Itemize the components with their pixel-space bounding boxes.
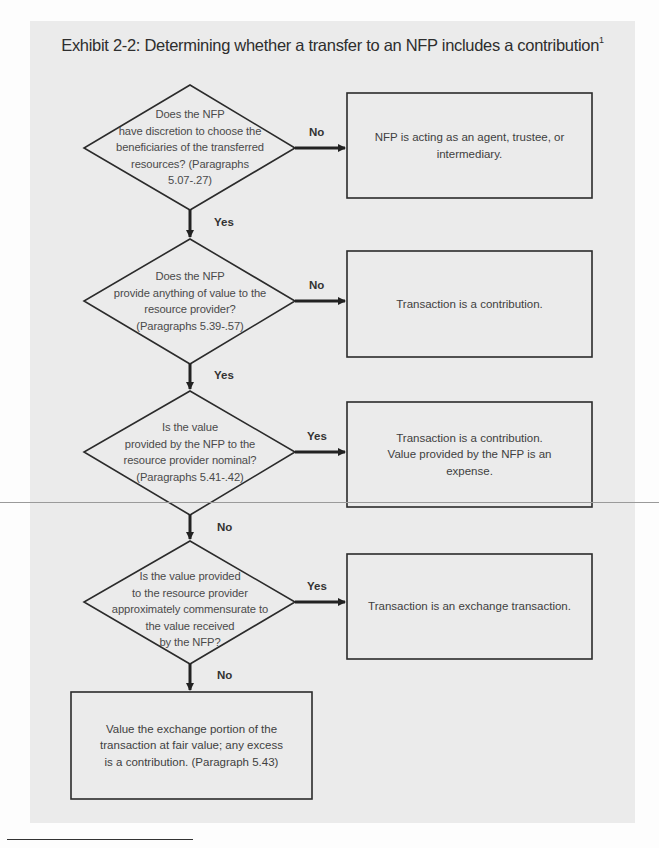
outcome-2-line: Transaction is a contribution. [396,296,543,313]
decision-4-line: Is the value provided [90,568,290,585]
footnote-rule [7,839,193,840]
outcome-3-line: expense. [388,463,552,480]
decision-2-line: (Paragraphs 5.39-.57) [90,318,290,335]
outcome-3-line: Value provided by the NFP is an [388,446,552,463]
decision-3-line: (Paragraphs 5.41-.42) [90,469,290,486]
d1-yes-label: Yes [214,216,234,228]
d2-yes-label: Yes [214,369,234,381]
d3-no-label: No [217,521,232,533]
decision-1-text: Does the NFP have discretion to choose t… [90,106,290,189]
decision-3-line: Is the value [90,419,290,436]
decision-2-line: Does the NFP [90,268,290,285]
outcome-5-line: Value the exchange portion of the [100,721,283,738]
decision-4-line: approximately commensurate to [90,601,290,618]
decision-1-line: have discretion to choose the [90,123,290,140]
decision-1-line: Does the NFP [90,106,290,123]
decision-4-line: by the NFP? [90,634,290,651]
outcome-2-text: Transaction is a contribution. [348,252,591,356]
outcome-5-line: transaction at fair value; any excess [100,737,283,754]
outcome-5-text: Value the exchange portion of the transa… [72,693,311,798]
decision-3-line: resource provider nominal? [90,452,290,469]
d4-no-label: No [217,669,232,681]
d4-yes-label: Yes [307,580,327,592]
outcome-5-line: is a contribution. (Paragraph 5.43) [100,754,283,771]
outcome-1-line: intermediary. [375,146,565,163]
decision-2-text: Does the NFP provide anything of value t… [90,268,290,334]
d1-no-label: No [309,126,324,138]
decision-3-line: provided by the NFP to the [90,436,290,453]
outcome-3-line: Transaction is a contribution. [388,430,552,447]
decision-4-line: to the resource provider [90,585,290,602]
d3-yes-label: Yes [307,430,327,442]
outcome-4-line: Transaction is an exchange transaction. [368,598,571,615]
decision-1-line: resources? (Paragraphs [90,156,290,173]
decision-2-line: resource provider? [90,301,290,318]
decision-4-line: the value received [90,618,290,635]
outcome-3-text: Transaction is a contribution. Value pro… [348,403,591,506]
outcome-1-line: NFP is acting as an agent, trustee, or [375,129,565,146]
decision-4-text: Is the value provided to the resource pr… [90,568,290,651]
decision-2-line: provide anything of value to the [90,285,290,302]
outcome-4-text: Transaction is an exchange transaction. [348,555,591,658]
outcome-1-text: NFP is acting as an agent, trustee, or i… [348,94,591,197]
decision-3-text: Is the value provided by the NFP to the … [90,419,290,485]
decision-1-line: beneficiaries of the transferred [90,139,290,156]
scan-artifact-line [0,502,659,503]
decision-1-line: 5.07-.27) [90,172,290,189]
d2-no-label: No [309,279,324,291]
